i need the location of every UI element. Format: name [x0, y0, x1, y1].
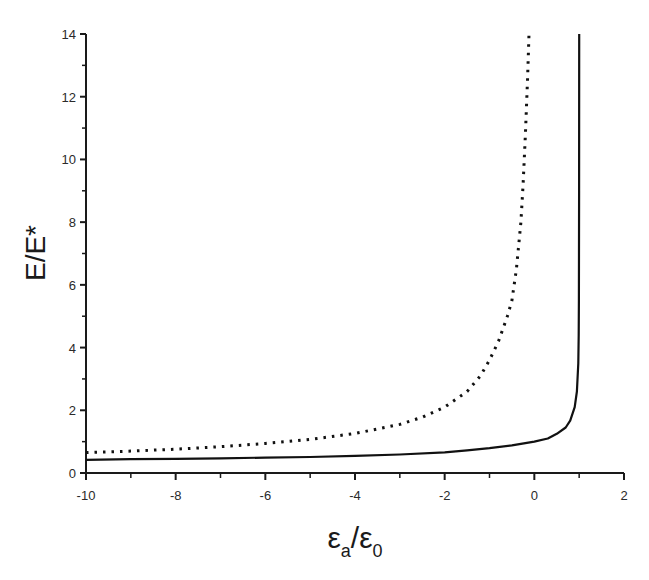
x-axis-title: εa/ε0 — [327, 521, 382, 561]
data-series — [86, 34, 579, 460]
y-axis-title: E/E* — [20, 225, 51, 281]
y-tick-label: 12 — [62, 90, 76, 105]
y-tick-label: 10 — [62, 152, 76, 167]
chart: 02468101214-10-8-6-4-202 E/E* εa/ε0 — [0, 0, 649, 580]
x-tick-label: -6 — [260, 488, 272, 503]
tick-labels: 02468101214-10-8-6-4-202 — [62, 27, 628, 503]
solid-curve — [86, 34, 579, 460]
axes — [80, 34, 624, 480]
y-tick-label: 2 — [69, 403, 76, 418]
dotted-curve — [86, 34, 529, 453]
y-tick-label: 6 — [69, 278, 76, 293]
x-tick-label: -8 — [170, 488, 182, 503]
x-tick-label: 0 — [531, 488, 538, 503]
x-tick-label: -4 — [349, 488, 361, 503]
x-tick-label: 2 — [620, 488, 627, 503]
y-tick-label: 4 — [69, 341, 76, 356]
x-tick-label: -10 — [77, 488, 96, 503]
y-tick-label: 14 — [62, 27, 76, 42]
y-tick-label: 0 — [69, 466, 76, 481]
y-tick-label: 8 — [69, 215, 76, 230]
x-tick-label: -2 — [439, 488, 451, 503]
